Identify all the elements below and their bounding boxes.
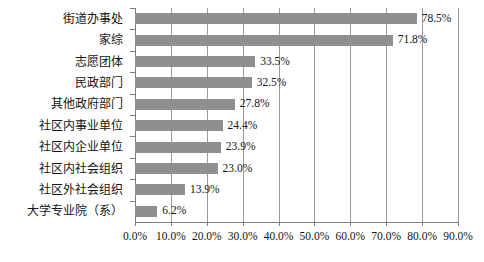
- bar: [135, 120, 223, 131]
- bar: [135, 77, 252, 88]
- category-label: 社区外社会组织: [0, 184, 129, 196]
- value-axis-label: 0.0%: [123, 230, 147, 242]
- bar: [135, 142, 221, 153]
- value-label: 27.8%: [240, 98, 270, 110]
- value-axis-label: 90.0%: [443, 230, 473, 242]
- value-axis-line: [135, 222, 459, 223]
- value-axis-tick: [422, 222, 423, 226]
- value-axis-label: 10.0%: [156, 230, 186, 242]
- bar: [135, 206, 157, 217]
- value-axis-tick: [458, 222, 459, 226]
- category-label: 社区内事业单位: [0, 120, 129, 132]
- bar: [135, 163, 218, 174]
- bar: [135, 184, 185, 195]
- value-axis-tick: [207, 222, 208, 226]
- value-axis-tick: [171, 222, 172, 226]
- category-label: 社区内社会组织: [0, 163, 129, 175]
- category-label: 家综: [0, 34, 129, 46]
- category-label: 社区内企业单位: [0, 141, 129, 153]
- value-axis-label: 40.0%: [264, 230, 294, 242]
- value-label: 24.4%: [228, 120, 258, 132]
- category-label: 大学专业院（系）: [0, 205, 129, 217]
- value-label: 6.2%: [162, 205, 186, 217]
- value-axis-tick: [135, 222, 136, 226]
- bar: [135, 13, 417, 24]
- value-label: 33.5%: [260, 56, 290, 68]
- value-label: 71.8%: [398, 34, 428, 46]
- value-label: 78.5%: [422, 13, 452, 25]
- value-axis-label: 20.0%: [192, 230, 222, 242]
- bar-chart: 街道办事处家综志愿团体民政部门其他政府部门社区内事业单位社区内企业单位社区内社会…: [0, 0, 484, 262]
- category-label: 街道办事处: [0, 13, 129, 25]
- bar: [135, 99, 235, 110]
- value-axis-tick: [243, 222, 244, 226]
- value-axis-tick: [279, 222, 280, 226]
- bar: [135, 35, 393, 46]
- value-axis-tick: [386, 222, 387, 226]
- category-label: 志愿团体: [0, 56, 129, 68]
- value-axis-tick: [314, 222, 315, 226]
- value-label: 13.9%: [190, 184, 220, 196]
- value-label: 32.5%: [257, 77, 287, 89]
- value-label: 23.0%: [223, 163, 253, 175]
- value-axis-label: 80.0%: [407, 230, 437, 242]
- value-axis-label: 60.0%: [335, 230, 365, 242]
- category-label: 民政部门: [0, 77, 129, 89]
- gridline-90-0%: [458, 8, 459, 222]
- value-axis-label: 50.0%: [300, 230, 330, 242]
- value-axis-label: 70.0%: [371, 230, 401, 242]
- category-label: 其他政府部门: [0, 98, 129, 110]
- value-axis-tick: [350, 222, 351, 226]
- value-axis-label: 30.0%: [228, 230, 258, 242]
- value-label: 23.9%: [226, 141, 256, 153]
- bar: [135, 56, 255, 67]
